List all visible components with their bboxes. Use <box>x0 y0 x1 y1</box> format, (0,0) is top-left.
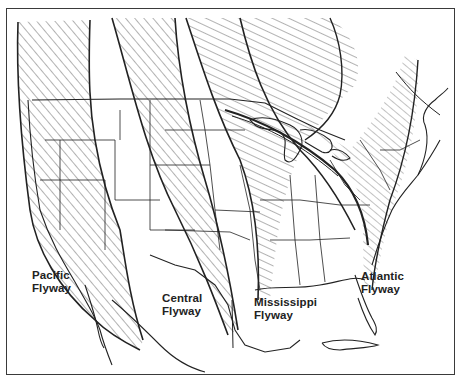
atlantic-flyway-label: Atlantic Flyway <box>361 270 404 296</box>
pacific-flyway-label: Pacific Flyway <box>32 269 71 295</box>
mississippi-flyway-label-line2: Flyway <box>254 309 317 322</box>
mississippi-flyway-label-line1: Mississippi <box>254 296 317 309</box>
mississippi-flyway-label: Mississippi Flyway <box>254 296 317 322</box>
central-flyway-label-line2: Flyway <box>162 305 202 318</box>
pacific-flyway-label-line2: Flyway <box>32 282 71 295</box>
atlantic-flyway-label-line1: Atlantic <box>361 270 404 283</box>
pacific-flyway-label-line1: Pacific <box>32 269 71 282</box>
central-flyway-label-line1: Central <box>162 292 202 305</box>
atlantic-flyway-label-line2: Flyway <box>361 283 404 296</box>
flyway-map <box>0 0 461 383</box>
central-flyway-label: Central Flyway <box>162 292 202 318</box>
